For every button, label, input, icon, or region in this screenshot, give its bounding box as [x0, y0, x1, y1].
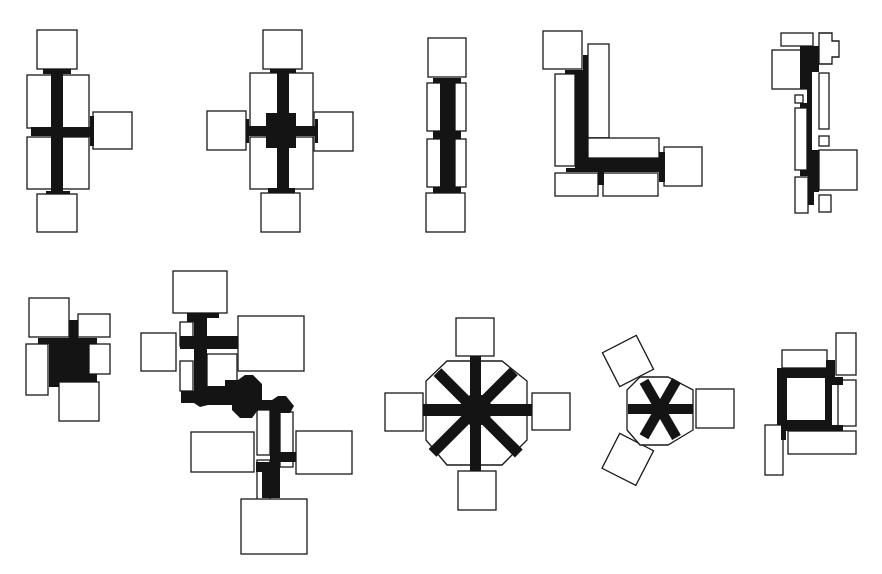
plan-l-shaped: [543, 31, 702, 196]
plan-linear-double-loaded: [426, 38, 466, 232]
plan-typology-diagram: [0, 0, 882, 574]
plan-radial-octagon: [385, 318, 570, 510]
plan-branching-chain: [141, 271, 352, 554]
plan-linear-staggered: [772, 33, 857, 213]
plan-cross-symmetric: [207, 30, 353, 232]
plan-courtyard-ring: [765, 333, 856, 475]
plan-radial-triangle: [602, 335, 734, 485]
plan-cross-asymmetric: [27, 30, 132, 232]
plan-compact-hall: [26, 298, 110, 421]
